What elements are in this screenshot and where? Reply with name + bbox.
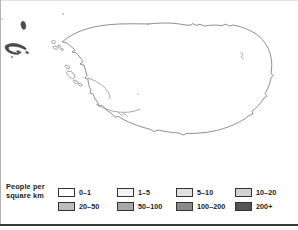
- legend-swatch-50-100: [117, 202, 134, 211]
- legend-label-5-10: 5–10: [197, 188, 213, 197]
- legend-title-line-2: square km: [6, 191, 44, 200]
- island-dot-a: [11, 56, 13, 58]
- legend-label-1-5: 1–5: [138, 188, 150, 197]
- legend-row-lower: 20–50 50–100 100–200 200+: [58, 199, 296, 213]
- legend-item-50-100[interactable]: 50–100: [117, 202, 176, 211]
- legend-label-200-plus: 200+: [256, 202, 272, 211]
- island-dot-c: [1, 18, 2, 19]
- legend-swatch-20-50: [58, 202, 75, 211]
- interior-marker: [137, 93, 139, 95]
- legend-swatch-10-20: [235, 188, 252, 197]
- island-small-b: [26, 51, 29, 54]
- island-alexander: [66, 71, 75, 79]
- legend-label-0-1: 0–1: [79, 188, 91, 197]
- island-shetland: [74, 80, 78, 84]
- antarctica-map-svg: [0, 0, 298, 180]
- island-peninsula-north: [52, 41, 56, 44]
- legend-item-20-50[interactable]: 20–50: [58, 202, 117, 211]
- island-peninsula-a: [53, 46, 58, 49]
- legend-label-20-50: 20–50: [79, 202, 99, 211]
- legend-label-100-200: 100–200: [197, 202, 225, 211]
- island-peninsula-b: [58, 45, 61, 48]
- island-adelaide: [65, 65, 70, 69]
- legend-swatch-1-5: [117, 188, 134, 197]
- island-thurston: [78, 83, 82, 86]
- map-legend: People per square km 0–1 1–5 5–10 10–20: [6, 183, 296, 221]
- legend-swatch-200-plus: [235, 202, 252, 211]
- legend-item-10-20[interactable]: 10–20: [235, 188, 294, 197]
- legend-item-200-plus[interactable]: 200+: [235, 202, 294, 211]
- map-page: People per square km 0–1 1–5 5–10 10–20: [0, 0, 298, 230]
- island-south-georgia: [21, 21, 26, 30]
- legend-label-50-100: 50–100: [138, 202, 162, 211]
- antarctica-coastline[interactable]: [62, 23, 273, 135]
- legend-swatch-5-10: [176, 188, 193, 197]
- legend-item-5-10[interactable]: 5–10: [176, 188, 235, 197]
- offshore-islands-group: [1, 13, 64, 58]
- legend-item-100-200[interactable]: 100–200: [176, 202, 235, 211]
- legend-item-1-5[interactable]: 1–5: [117, 188, 176, 197]
- legend-swatch-0-1: [58, 188, 75, 197]
- legend-row-upper: 0–1 1–5 5–10 10–20: [58, 185, 296, 199]
- legend-title: People per square km: [6, 183, 64, 200]
- legend-swatch-100-200: [176, 202, 193, 211]
- legend-label-10-20: 10–20: [256, 188, 276, 197]
- island-peninsula-c: [60, 48, 63, 51]
- island-dot-b: [62, 13, 64, 15]
- legend-item-0-1[interactable]: 0–1: [58, 188, 117, 197]
- island-chain-sandwich: [5, 43, 26, 54]
- page-bottom-rule: [0, 224, 298, 226]
- antarctica-map[interactable]: [0, 0, 298, 180]
